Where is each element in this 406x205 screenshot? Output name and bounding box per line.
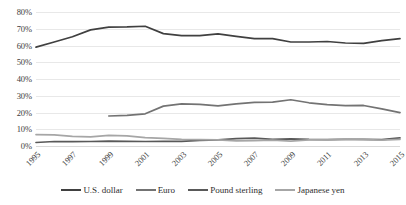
y-tick-label: 40% — [0, 75, 32, 84]
chart-title — [0, 0, 406, 4]
plot-area — [36, 12, 400, 146]
legend-item[interactable]: Japanese yen — [275, 185, 344, 195]
legend-swatch-icon — [136, 189, 156, 191]
y-tick-label: 30% — [0, 91, 32, 100]
legend-item[interactable]: Euro — [136, 185, 176, 195]
y-tick-label: 0% — [0, 142, 32, 151]
legend-label: Euro — [158, 185, 176, 195]
x-tick-label: 1999 — [97, 150, 115, 168]
x-tick-label: 2007 — [243, 150, 261, 168]
y-tick-label: 70% — [0, 24, 32, 33]
chart-legend: U.S. dollarEuroPound sterlingJapanese ye… — [0, 181, 406, 199]
legend-label: Japanese yen — [297, 185, 344, 195]
legend-label: U.S. dollar — [83, 185, 122, 195]
x-axis: 1995199719992001200320052007200920112013… — [36, 148, 400, 176]
y-tick-label: 20% — [0, 108, 32, 117]
y-tick-label: 10% — [0, 125, 32, 134]
series-layer — [36, 12, 400, 146]
series-line — [36, 26, 400, 47]
legend-label: Pound sterling — [210, 185, 262, 195]
y-tick-label: 80% — [0, 8, 32, 17]
x-tick-label: 2001 — [133, 150, 151, 168]
y-tick-label: 50% — [0, 58, 32, 67]
x-tick-label: 2015 — [388, 150, 406, 168]
x-tick-label: 2005 — [206, 150, 224, 168]
x-tick-label: 2009 — [279, 150, 297, 168]
legend-item[interactable]: U.S. dollar — [61, 185, 122, 195]
x-tick-label: 2013 — [352, 150, 370, 168]
x-tick-label: 1995 — [24, 150, 42, 168]
legend-item[interactable]: Pound sterling — [188, 185, 262, 195]
x-tick-label: 2003 — [170, 150, 188, 168]
series-line — [36, 135, 400, 142]
x-tick-label: 2011 — [316, 150, 334, 168]
series-line — [109, 100, 400, 116]
y-tick-label: 60% — [0, 41, 32, 50]
legend-swatch-icon — [275, 189, 295, 191]
line-chart: 80%70%60%50%40%30%20%10%0% 1995199719992… — [0, 0, 406, 205]
y-axis: 80%70%60%50%40%30%20%10%0% — [0, 12, 32, 146]
legend-swatch-icon — [188, 189, 208, 191]
legend-swatch-icon — [61, 189, 81, 191]
gridline — [36, 146, 400, 147]
x-tick-label: 1997 — [61, 150, 79, 168]
